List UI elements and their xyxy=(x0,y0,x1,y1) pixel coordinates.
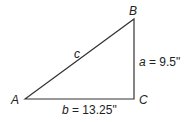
vertex-label-a: A xyxy=(10,93,19,107)
side-label-a: a = 9.5" xyxy=(139,55,180,69)
side-label-c: c xyxy=(74,47,80,61)
side-label-b: b = 13.25" xyxy=(62,103,117,117)
triangle-diagram: B A C c a = 9.5" b = 13.25" xyxy=(0,0,186,122)
vertex-label-c: C xyxy=(139,93,148,107)
side-a-value: = 9.5" xyxy=(146,55,181,69)
side-b-value: = 13.25" xyxy=(69,103,117,117)
vertex-label-b: B xyxy=(129,4,137,18)
